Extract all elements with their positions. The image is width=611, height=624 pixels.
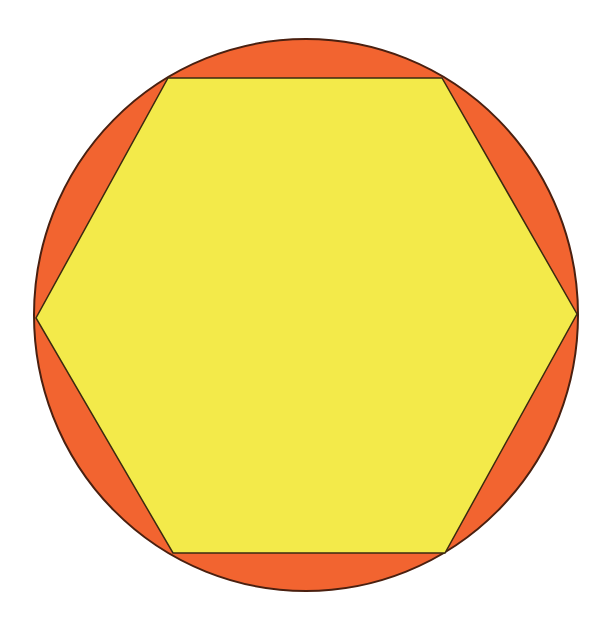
hexagon-in-circle-diagram xyxy=(0,0,611,624)
